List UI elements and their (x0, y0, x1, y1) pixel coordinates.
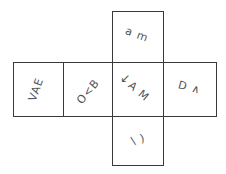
face-left-glyphs: VAE (26, 76, 47, 103)
face-center-left-glyphs: O<B (74, 76, 102, 106)
face-top: a m (112, 11, 164, 63)
face-bottom: \ ) (112, 116, 164, 166)
face-right-glyphs: D ∧ (177, 78, 203, 97)
face-right: D ∧ (163, 62, 217, 117)
face-bottom-glyphs: \ ) (130, 131, 147, 147)
face-center-glyphs: A M (126, 79, 152, 104)
face-top-glyphs: a m (123, 24, 150, 44)
face-left: VAE (13, 62, 64, 117)
face-center-left: O<B (63, 62, 113, 117)
face-center: ↙ A M (112, 62, 164, 117)
